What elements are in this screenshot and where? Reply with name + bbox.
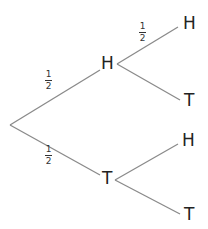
node-H-H: H	[183, 15, 196, 32]
numerator: 1	[46, 145, 52, 154]
numerator: 1	[140, 22, 146, 31]
node-first-H: H	[101, 55, 114, 72]
node-first-T: T	[102, 170, 112, 187]
node-H-T: T	[184, 92, 194, 109]
branch-T-T	[115, 180, 180, 214]
denominator: 2	[46, 157, 52, 166]
branch-root-H	[10, 70, 100, 125]
prob-H-H: 1 2	[139, 22, 146, 43]
prob-root-H: 1 2	[45, 70, 52, 91]
branch-root-T	[10, 125, 100, 175]
node-T-H: H	[182, 132, 195, 149]
node-T-T: T	[184, 206, 194, 223]
denominator: 2	[46, 82, 52, 91]
tree-branches	[0, 0, 208, 229]
prob-root-T: 1 2	[45, 145, 52, 166]
branch-H-H	[117, 27, 178, 64]
denominator: 2	[140, 34, 146, 43]
branch-T-H	[115, 144, 178, 180]
branch-H-T	[117, 64, 180, 100]
numerator: 1	[46, 70, 52, 79]
